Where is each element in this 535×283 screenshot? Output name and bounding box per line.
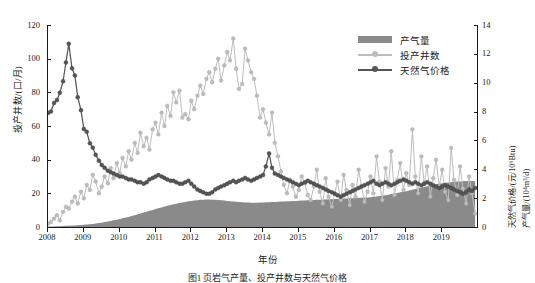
x-axis-tick-mark [119, 228, 120, 232]
x-axis-tick-label: 2014 [242, 233, 282, 242]
y-axis-right-tick-label: 0 [482, 223, 502, 232]
y-axis-right-tick-mark [474, 140, 478, 141]
legend-marker-dot [372, 66, 378, 72]
legend-key-icon [358, 33, 392, 46]
x-axis-tick-mark [334, 228, 335, 232]
x-axis-tick-mark [262, 228, 263, 232]
y-axis-right-tick-mark [474, 25, 478, 26]
x-axis-tick-mark [83, 228, 84, 232]
y-axis-left-tick-label: 0 [14, 223, 40, 232]
y-axis-left-tick-mark [47, 193, 51, 194]
x-axis-tick-label: 2018 [385, 233, 425, 242]
series-area-production [48, 181, 475, 227]
legend-item[interactable]: 投产井数 [358, 47, 450, 62]
y-axis-right-tick-label: 10 [482, 78, 502, 87]
x-axis-tick-mark [155, 228, 156, 232]
legend-marker-dot [372, 51, 378, 57]
y-axis-left-tick-mark [47, 126, 51, 127]
legend-item-label: 产气量 [400, 33, 430, 47]
figure-caption: 图1 页岩气产量、投产井数与天然气价格 [0, 271, 535, 283]
y-axis-left-tick-label: 20 [14, 189, 40, 198]
y-axis-left-title: 投产井数/(口/月) [11, 30, 24, 170]
y-axis-right-tick-mark [474, 112, 478, 113]
x-axis-tick-label: 2011 [135, 233, 175, 242]
x-axis-tick-mark [405, 228, 406, 232]
y-axis-right-tick-label: 6 [482, 136, 502, 145]
legend-key-icon [358, 63, 392, 76]
y-axis-right-tick-mark [474, 54, 478, 55]
x-axis-tick-label: 2010 [99, 233, 139, 242]
x-axis-title: 年份 [0, 252, 535, 266]
y-axis-right-tick-mark [474, 83, 478, 84]
legend-item[interactable]: 产气量 [358, 32, 450, 47]
legend-key-icon [358, 48, 392, 61]
legend-item-label: 投产井数 [400, 48, 440, 62]
x-axis-tick-mark [298, 228, 299, 232]
x-axis-tick-label: 2017 [350, 233, 390, 242]
y-axis-left-tick-mark [47, 92, 51, 93]
y-axis-right-tick-mark [474, 198, 478, 199]
y-axis-left-tick-label: 120 [14, 21, 40, 30]
x-axis-tick-mark [370, 228, 371, 232]
y-axis-left-tick-mark [47, 160, 51, 161]
x-axis-tick-label: 2008 [27, 233, 67, 242]
y-axis-right-tick-label: 8 [482, 107, 502, 116]
y-axis-right-title-price-text: 天然气价格/(元/10⁶Btu) [508, 146, 517, 228]
chart-legend: 产气量投产井数天然气价格 [358, 32, 450, 77]
legend-item-label: 天然气价格 [400, 63, 450, 77]
y-axis-right-tick-label: 2 [482, 194, 502, 203]
x-axis-tick-mark [190, 228, 191, 232]
y-axis-right-tick-mark [474, 169, 478, 170]
x-axis-tick-label: 2012 [170, 233, 210, 242]
y-axis-right-title-production: 产气量/(10⁴m³/d) [519, 169, 531, 228]
x-axis-tick-mark [441, 228, 442, 232]
legend-item[interactable]: 天然气价格 [358, 62, 450, 77]
y-axis-right-tick-label: 12 [482, 49, 502, 58]
figure-shale-gas-chart: 020406080100120 投产井数/(口/月) 02468101214 天… [0, 0, 535, 283]
y-axis-left-tick-mark [47, 25, 51, 26]
x-axis-tick-label: 2013 [206, 233, 246, 242]
x-axis-tick-label: 2016 [314, 233, 354, 242]
x-axis-tick-mark [47, 228, 48, 232]
y-axis-left-tick-mark [47, 59, 51, 60]
y-axis-right-tick-mark [474, 227, 478, 228]
x-axis-tick-mark [226, 228, 227, 232]
x-axis-tick-label: 2019 [421, 233, 461, 242]
x-axis-tick-label: 2015 [278, 233, 318, 242]
x-axis-tick-label: 2009 [63, 233, 103, 242]
legend-area-swatch [358, 36, 392, 43]
y-axis-right-tick-label: 14 [482, 21, 502, 30]
y-axis-right-title-price: 天然气价格/(元/10⁶Btu) [505, 146, 517, 228]
y-axis-right-title-production-text: 产气量/(10⁴m³/d) [522, 169, 531, 228]
y-axis-right-tick-label: 4 [482, 165, 502, 174]
